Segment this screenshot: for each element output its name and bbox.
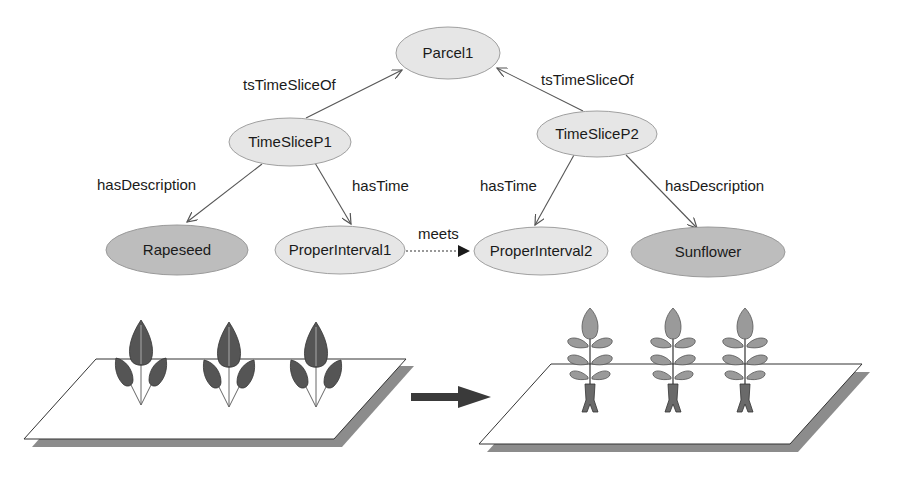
node-label-properInterval2: ProperInterval2 (490, 242, 593, 259)
edge-label-hasDescription-2: hasDescription (665, 177, 764, 194)
node-label-properInterval1: ProperInterval1 (289, 241, 392, 258)
node-sunflower: Sunflower (631, 227, 785, 277)
node-label-timesliceP2: TimeSliceP2 (555, 125, 639, 142)
edge-hasDescription-1 (187, 164, 262, 222)
node-timesliceP2: TimeSliceP2 (537, 111, 657, 157)
node-parcel1: Parcel1 (396, 27, 500, 79)
diagram-canvas: tsTimeSliceOf tsTimeSliceOf hasDescripti… (0, 0, 897, 480)
edge-labels: tsTimeSliceOf tsTimeSliceOf hasDescripti… (97, 71, 764, 242)
node-label-timesliceP1: TimeSliceP1 (248, 133, 332, 150)
node-label-parcel1: Parcel1 (423, 44, 474, 61)
edge-label-tsTimeSliceOf-1: tsTimeSliceOf (243, 76, 337, 93)
left-field-rapeseed (24, 320, 414, 447)
edge-hasTime-1 (315, 163, 351, 224)
node-properInterval2: ProperInterval2 (474, 227, 608, 275)
edge-label-hasDescription-1: hasDescription (97, 176, 196, 193)
edge-label-meets: meets (418, 225, 459, 242)
node-label-rapeseed: Rapeseed (143, 241, 211, 258)
node-properInterval1: ProperInterval1 (275, 226, 405, 274)
edge-label-hasTime-1: hasTime (352, 177, 409, 194)
arrow-right-icon (411, 386, 491, 408)
right-field-sunflower (479, 308, 870, 452)
node-rapeseed: Rapeseed (106, 225, 248, 275)
node-label-sunflower: Sunflower (675, 243, 742, 260)
edge-label-tsTimeSliceOf-2: tsTimeSliceOf (541, 71, 635, 88)
edge-hasTime-2 (535, 155, 574, 225)
edge-label-hasTime-2: hasTime (480, 177, 537, 194)
node-timesliceP1: TimeSliceP1 (229, 118, 351, 166)
